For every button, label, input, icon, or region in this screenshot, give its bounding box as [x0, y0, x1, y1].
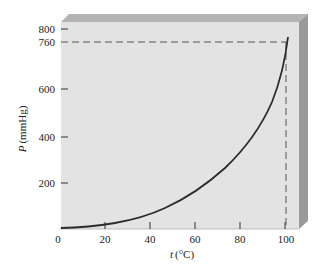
y-axis-title: P(mmHg)	[16, 105, 29, 153]
y-tick-label-200: 200	[39, 177, 56, 189]
y-tick-label-400: 400	[39, 131, 56, 143]
x-tick-label-40: 40	[145, 233, 157, 245]
plot-side-bevel	[299, 14, 308, 229]
y-tick-label-760: 760	[39, 36, 56, 48]
y-tick-label-800: 800	[39, 23, 56, 35]
x-tick-label-20: 20	[100, 233, 112, 245]
x-axis-title: t(°C)	[170, 248, 194, 261]
vapor-pressure-chart: 800 760 600 400 200 0 20 40 60 80 100 t(…	[0, 0, 328, 272]
plot-top-bevel	[61, 14, 308, 22]
y-tick-label-600: 600	[39, 83, 56, 95]
x-tick-label-80: 80	[235, 233, 247, 245]
plot-area	[61, 22, 299, 229]
x-tick-label-0: 0	[55, 233, 61, 245]
x-tick-label-60: 60	[190, 233, 202, 245]
x-tick-label-100: 100	[278, 233, 295, 245]
